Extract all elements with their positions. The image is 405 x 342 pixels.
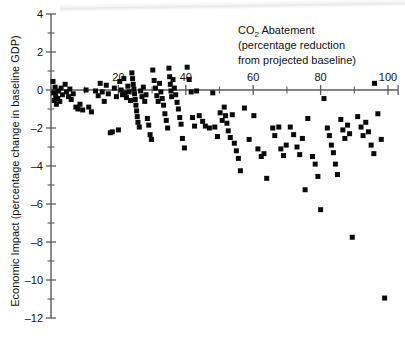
axis-labels: CO2 Abatement(percentage reductionfrom p… xyxy=(9,24,356,307)
scatter-plot: 420–2–4–6–8–10–12 20406080100 CO2 Abatem… xyxy=(0,0,405,342)
svg-text:Economic Impact (percentage ch: Economic Impact (percentage change in ba… xyxy=(9,35,21,306)
svg-text:–6: –6 xyxy=(31,198,43,210)
data-points xyxy=(51,65,388,301)
svg-text:–12: –12 xyxy=(25,312,43,324)
y-axis: 420–2–4–6–8–10–12 xyxy=(25,8,56,324)
svg-text:60: 60 xyxy=(247,71,259,83)
svg-text:100: 100 xyxy=(379,71,397,83)
svg-text:80: 80 xyxy=(314,71,326,83)
chart-figure: 420–2–4–6–8–10–12 20406080100 CO2 Abatem… xyxy=(0,0,405,342)
svg-text:(percentage reduction: (percentage reduction xyxy=(238,39,345,51)
svg-text:4: 4 xyxy=(37,8,43,20)
svg-text:–10: –10 xyxy=(25,274,43,286)
svg-text:from projected baseline): from projected baseline) xyxy=(238,54,356,66)
svg-text:CO2 Abatement: CO2 Abatement xyxy=(238,24,315,39)
svg-text:–2: –2 xyxy=(31,122,43,134)
svg-text:–8: –8 xyxy=(31,236,43,248)
svg-text:–4: –4 xyxy=(31,160,43,172)
svg-text:0: 0 xyxy=(37,84,43,96)
svg-text:2: 2 xyxy=(37,46,43,58)
